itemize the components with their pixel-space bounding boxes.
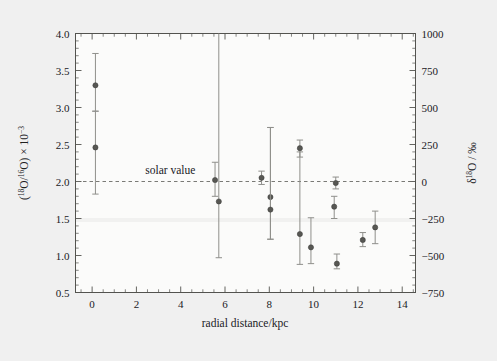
x-tick-label: 14	[397, 298, 409, 310]
x-tick-label: 12	[352, 298, 363, 310]
marker	[212, 177, 217, 182]
marker	[333, 180, 338, 185]
solar-value-annotation: solar value	[145, 164, 195, 176]
x-tick-label: 2	[134, 298, 140, 310]
y-tick-label: 3.0	[56, 102, 70, 114]
y2-tick-label: 500	[422, 102, 439, 114]
marker	[308, 245, 313, 250]
y-tick-label: 2.5	[56, 139, 70, 151]
y-tick-label: 1.5	[56, 213, 70, 225]
x-tick-label: 10	[308, 298, 320, 310]
y-tick-label: 0.5	[56, 287, 70, 299]
x-tick-label: 0	[89, 298, 95, 310]
y-tick-label: 1.0	[56, 250, 70, 262]
y-axis-title: (18O/16O) × 10−3	[17, 126, 31, 200]
y2-tick-label: −500	[422, 250, 445, 262]
x-axis-title: radial distance/kpc	[202, 317, 289, 330]
x-tick-label: 6	[222, 298, 228, 310]
svg-text:δ18O / ‰: δ18O / ‰	[465, 142, 478, 184]
marker	[334, 261, 339, 266]
marker	[216, 199, 221, 204]
marker	[332, 204, 337, 209]
y2-tick-label: 250	[422, 139, 439, 151]
scan-artifact-band	[76, 218, 415, 222]
x-tick-labels: 02468101214	[89, 298, 408, 310]
marker	[373, 225, 378, 230]
plot-frame	[76, 34, 416, 293]
y2-axis-title: δ18O / ‰	[465, 142, 478, 184]
y2-tick-label: 750	[422, 65, 439, 77]
marker	[360, 237, 365, 242]
x-tick-label: 8	[267, 298, 273, 310]
y2-tick-label: −250	[422, 213, 445, 225]
marker	[297, 146, 302, 151]
marker	[297, 231, 302, 236]
marker	[93, 83, 98, 88]
marker	[93, 145, 98, 150]
annotations-layer: solar value	[145, 164, 195, 176]
y-tick-label: 2.0	[56, 176, 70, 188]
y2-tick-labels: −750−500−25002505007501000	[422, 28, 445, 299]
figure-container: 02468101214 0.51.01.52.02.53.03.54.0 −75…	[0, 0, 497, 361]
y-tick-labels: 0.51.01.52.02.53.03.54.0	[56, 28, 70, 299]
scatter-plot: 02468101214 0.51.01.52.02.53.03.54.0 −75…	[0, 0, 497, 361]
y2-tick-label: 0	[422, 176, 428, 188]
y2-tick-label: −750	[422, 287, 445, 299]
x-tick-label: 4	[178, 298, 184, 310]
svg-text:(18O/16O) × 10−3: (18O/16O) × 10−3	[17, 126, 31, 200]
marker	[259, 175, 264, 180]
y2-tick-label: 1000	[422, 28, 445, 40]
y-tick-label: 3.5	[56, 65, 70, 77]
y-tick-label: 4.0	[56, 28, 70, 40]
marker	[268, 207, 273, 212]
